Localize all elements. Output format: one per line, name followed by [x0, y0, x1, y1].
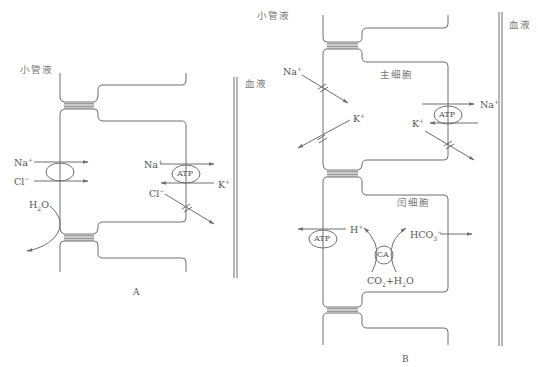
- principal-cell-label: 主细胞: [380, 70, 413, 80]
- panel-a-caption: A: [133, 288, 140, 297]
- panel-b-caption: B: [402, 355, 409, 364]
- panel-b-pump-k: K+: [412, 118, 424, 129]
- panel-a-cl-channel: Cl−: [149, 188, 164, 199]
- panel-a-blood-label: 血液: [245, 79, 267, 89]
- panel-a-lumen-label: 小管液: [20, 65, 53, 75]
- panel-b-blood-label: 血液: [509, 20, 531, 30]
- panel-a-cl-ion: Cl−: [14, 176, 29, 187]
- panel-b-h-ion: H+: [350, 224, 363, 235]
- panel-a-water: H2O: [29, 200, 49, 212]
- panel-b-ca-label: CA: [377, 251, 389, 259]
- panel-b-na-ion: Na+: [283, 66, 302, 77]
- panel-a-cells: [60, 73, 237, 278]
- diagram-canvas: [0, 0, 538, 367]
- panel-a-na-ion: Na+: [14, 157, 33, 168]
- panel-b-k-ion: K+: [353, 113, 365, 124]
- panel-a-pump-k: K+: [218, 179, 230, 190]
- panel-b-pump-atp: ATP: [439, 111, 455, 119]
- panel-b-lumen-label: 小管液: [257, 11, 290, 21]
- intercalated-cell-label: 闰细胞: [397, 198, 430, 208]
- panel-a-pump-atp: ATP: [177, 170, 193, 178]
- panel-b-h-atpase-label: ATP: [314, 235, 330, 243]
- panel-a-pump-na: Na+: [144, 159, 163, 170]
- panel-b-hco3: HCO3−: [410, 229, 442, 242]
- panel-b-cells: [323, 12, 502, 346]
- panel-b-pump-na: Na+: [480, 99, 499, 110]
- panel-b-co2-h2o: CO2+H2O: [367, 276, 414, 288]
